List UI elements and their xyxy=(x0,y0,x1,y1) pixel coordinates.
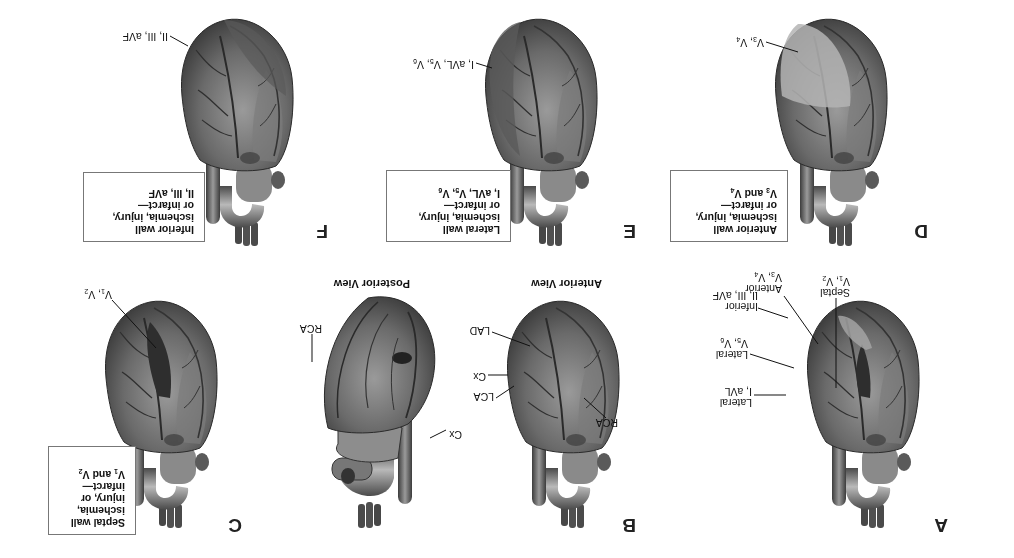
leader-line xyxy=(748,350,794,370)
leader-line xyxy=(310,334,314,362)
label-i-avl-v5-v6: I, aVL, V5, V6 xyxy=(413,56,474,70)
leader-line xyxy=(168,34,188,46)
label-ii-iii-avf: II, III, aVF xyxy=(122,31,168,42)
leader-line xyxy=(752,392,786,398)
leader-line xyxy=(834,298,838,388)
callout-box-septal-wall: Septal wall ischemia, injury, or infarct… xyxy=(48,446,136,535)
callout-box-anterior-wall: Anterior wall ischemia, injury, or infar… xyxy=(670,170,788,242)
panel-letter-d: D xyxy=(914,220,928,242)
label-v1-v2: V1, V2 xyxy=(84,286,112,300)
label-lca: LCA xyxy=(474,391,494,402)
leader-line xyxy=(428,428,446,440)
leader-line xyxy=(110,298,156,348)
label-cx: Cx xyxy=(449,429,462,440)
label-lad: LAD xyxy=(470,325,490,336)
label-anterior: AnteriorV3, V4 xyxy=(745,269,782,294)
label-v3-v4: V3, V4 xyxy=(736,34,764,48)
label-lateral-i-avl: LateralI, aVL xyxy=(720,386,752,408)
view-title-posterior: Posterior View xyxy=(334,278,410,290)
label-rca: RCA xyxy=(596,417,618,428)
panel-letter-f: F xyxy=(316,220,328,242)
leader-line xyxy=(494,384,514,400)
panel-letter-e: E xyxy=(623,220,636,242)
label-lateral-v5-v6: LateralV5, V6 xyxy=(716,335,748,360)
leader-line xyxy=(490,328,530,348)
label-rca: RCA xyxy=(300,323,322,334)
leader-line xyxy=(778,294,818,344)
leader-line xyxy=(764,38,798,52)
leader-line xyxy=(582,394,606,418)
view-title-anterior: Anterior View xyxy=(531,278,602,290)
ecg-lead-heart-diagram: A InferiorII, III, aVF SeptalV1, V2 Ante… xyxy=(0,0,1014,558)
label-septal: SeptalV1, V2 xyxy=(820,273,850,298)
leader-line xyxy=(474,60,492,70)
leader-line xyxy=(486,372,508,378)
label-cx: Cx xyxy=(473,371,486,382)
callout-box-inferior-wall: Inferior wall ischemia, injury, or infar… xyxy=(83,172,205,242)
heart-anterior-view-illustration xyxy=(492,288,642,528)
callout-box-lateral-wall: Lateral wall ischemia, injury, or infarc… xyxy=(386,170,511,242)
